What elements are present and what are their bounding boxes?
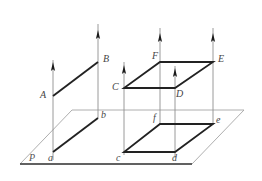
vertex-label-A: A xyxy=(40,90,46,100)
ray-arrowheads xyxy=(51,30,215,77)
projection-rays xyxy=(53,24,213,160)
vertex-label-C: C xyxy=(112,82,119,92)
vertex-label-e: e xyxy=(216,115,220,125)
projection-diagram: A B C D E F a b c d e f P xyxy=(0,0,262,181)
vertex-label-B: B xyxy=(103,54,109,64)
vertex-label-E: E xyxy=(218,54,224,64)
vertex-label-a: a xyxy=(48,153,53,163)
vertex-label-F: F xyxy=(152,51,158,61)
parallelogram-CDEF xyxy=(124,62,213,88)
plane-label-P: P xyxy=(29,153,35,163)
vertex-label-d: d xyxy=(172,153,177,163)
segment-AB xyxy=(53,62,98,96)
vertex-label-f: f xyxy=(153,113,156,123)
plane-P xyxy=(20,110,244,164)
parallelogram-cdef xyxy=(124,124,213,152)
vertex-label-c: c xyxy=(116,153,120,163)
vertex-label-D: D xyxy=(176,89,183,99)
vertex-label-b: b xyxy=(101,110,106,120)
